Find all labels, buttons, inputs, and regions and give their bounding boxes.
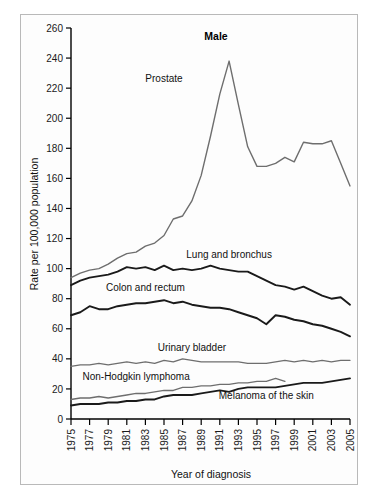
x-tick-label: 1981 bbox=[121, 429, 132, 452]
y-tick-label: 40 bbox=[52, 353, 64, 364]
axes-group bbox=[71, 28, 350, 419]
x-tick-label: 1999 bbox=[289, 429, 300, 452]
y-axis-title: Rate per 100,000 population bbox=[28, 158, 40, 291]
y-tick-label: 200 bbox=[46, 113, 63, 124]
x-tick-label: 1997 bbox=[270, 429, 281, 452]
y-tick-label: 20 bbox=[52, 384, 64, 395]
series-annotation-lung-and-bronchus: Lung and bronchus bbox=[186, 249, 272, 260]
series-line-urinary-bladder bbox=[71, 359, 350, 367]
x-tick-label: 1977 bbox=[84, 429, 95, 452]
x-axis-title: Year of diagnosis bbox=[171, 468, 251, 480]
y-tick-label: 140 bbox=[46, 203, 63, 214]
series-annotation-non-hodgkin-lymphoma: Non-Hodgkin lymphoma bbox=[82, 371, 190, 382]
series-annotation-colon-and-rectum: Colon and rectum bbox=[106, 282, 185, 293]
series-annotation-urinary-bladder: Urinary bladder bbox=[158, 342, 227, 353]
x-tick-label: 2005 bbox=[345, 429, 356, 452]
y-tick-label: 180 bbox=[46, 143, 63, 154]
x-axis-ticks: 1975197719791981198319851987198919911993… bbox=[66, 419, 356, 451]
y-tick-label: 120 bbox=[46, 233, 63, 244]
x-tick-label: 1995 bbox=[252, 429, 263, 452]
x-tick-label: 1983 bbox=[140, 429, 151, 452]
chart-title: Male bbox=[204, 30, 228, 42]
series-annotation-melanoma-of-the-skin: Melanoma of the skin bbox=[219, 390, 314, 401]
x-tick-label: 1993 bbox=[233, 429, 244, 452]
x-tick-label: 1991 bbox=[214, 429, 225, 452]
cancer-incidence-line-chart: 020406080100120140160180200220240260 197… bbox=[0, 0, 380, 499]
x-tick-label: 1975 bbox=[66, 429, 77, 452]
y-tick-label: 160 bbox=[46, 173, 63, 184]
x-tick-label: 1989 bbox=[196, 429, 207, 452]
x-tick-label: 1979 bbox=[103, 429, 114, 452]
y-tick-label: 260 bbox=[46, 23, 63, 34]
x-tick-label: 1985 bbox=[159, 429, 170, 452]
x-tick-label: 2001 bbox=[307, 429, 318, 452]
y-axis-ticks: 020406080100120140160180200220240260 bbox=[46, 23, 71, 425]
y-tick-label: 80 bbox=[52, 293, 64, 304]
series-line-prostate bbox=[71, 61, 350, 278]
series-line-colon-and-rectum bbox=[71, 300, 350, 336]
x-tick-label: 1987 bbox=[177, 429, 188, 452]
y-tick-label: 220 bbox=[46, 83, 63, 94]
series-annotations-group: ProstateLung and bronchusColon and rectu… bbox=[82, 73, 313, 401]
y-tick-label: 60 bbox=[52, 323, 64, 334]
series-annotation-prostate: Prostate bbox=[145, 73, 183, 84]
y-tick-label: 0 bbox=[57, 414, 63, 425]
y-tick-label: 100 bbox=[46, 263, 63, 274]
x-tick-label: 2003 bbox=[326, 429, 337, 452]
data-series-group bbox=[71, 61, 350, 405]
y-tick-label: 240 bbox=[46, 53, 63, 64]
